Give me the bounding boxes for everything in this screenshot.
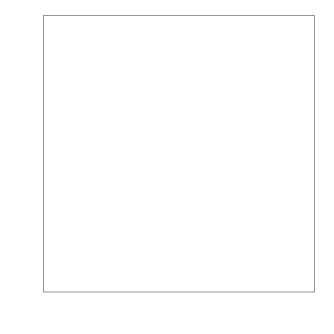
- plot-canvas: [0, 0, 334, 334]
- normal-probability-plot: [0, 0, 334, 334]
- plot-frame: [44, 16, 315, 293]
